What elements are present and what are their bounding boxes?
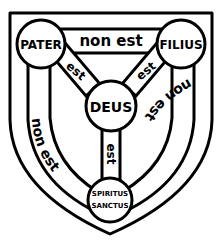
spoke-deus-spiritus-label: est <box>104 143 118 164</box>
node-pater: PATER <box>17 20 65 68</box>
node-deus: DEUS <box>86 81 136 131</box>
node-pater-label: PATER <box>20 38 62 52</box>
band-right-label: non est <box>142 76 195 125</box>
shield-of-trinity-diagram: non est non est non est est est est PATE… <box>0 0 222 241</box>
node-spiritus-label-line1: SPIRITUS <box>92 190 128 198</box>
band-top: non est <box>58 29 164 53</box>
node-filius-label: FILIUS <box>159 38 202 52</box>
node-spiritus-label-line2: SANCTUS <box>92 202 129 210</box>
node-filius: FILIUS <box>157 20 205 68</box>
node-spiritus-sanctus: SPIRITUS SANCTUS <box>88 178 132 222</box>
spoke-deus-spiritus: est <box>102 128 120 180</box>
node-deus-label: DEUS <box>90 99 133 115</box>
band-top-label: non est <box>79 32 142 50</box>
